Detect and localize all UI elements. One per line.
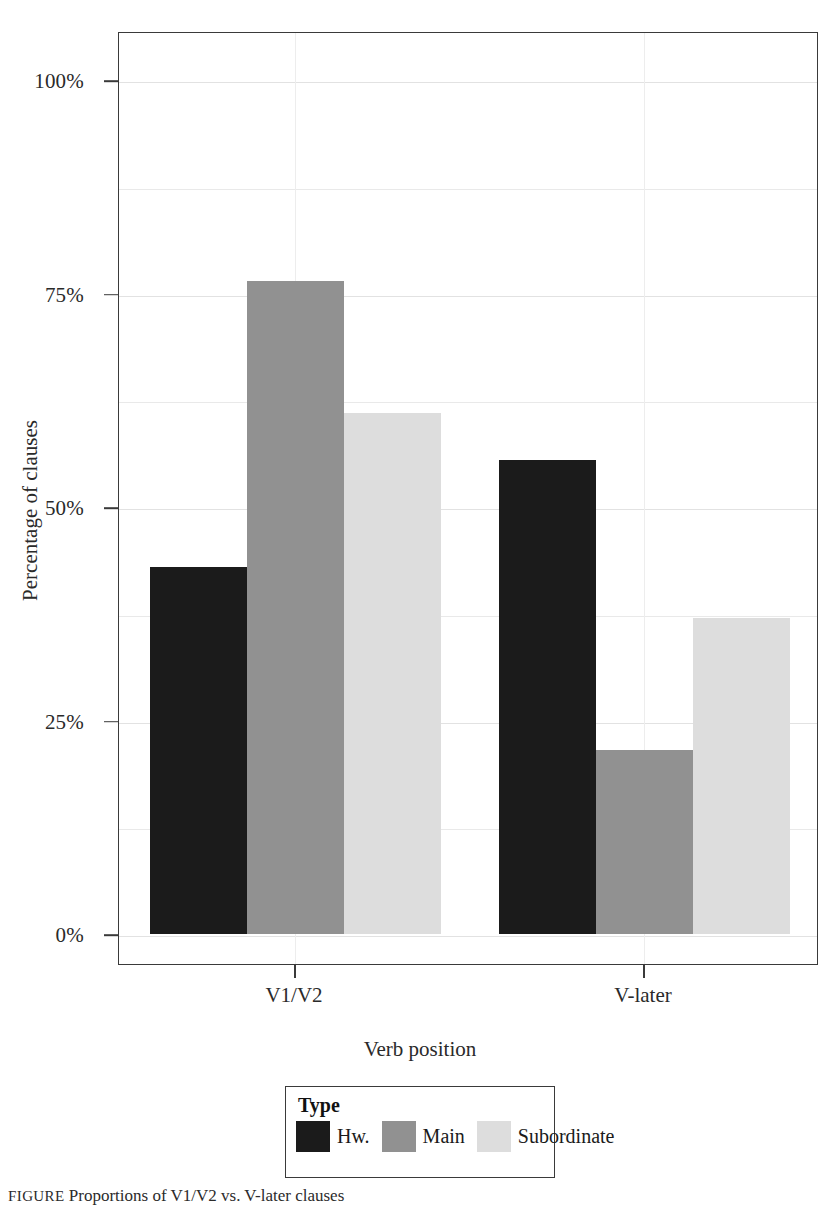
y-tick-mark: [104, 294, 118, 296]
gridline-major: [119, 82, 817, 83]
plot-frame: [118, 32, 818, 965]
y-tick-label: 25%: [45, 709, 84, 734]
gridline-major: [119, 296, 817, 297]
x-tick-mark: [294, 965, 296, 978]
bar-main-vlater: [596, 750, 693, 934]
bar-hw-vlater: [499, 460, 596, 934]
legend-label: Main: [423, 1125, 465, 1148]
plot-area: [119, 33, 817, 964]
y-tick-label: 0%: [56, 923, 84, 948]
bar-subordinate-v1v2: [344, 413, 441, 934]
y-tick-label: 100%: [34, 69, 84, 94]
legend-label: Subordinate: [518, 1125, 615, 1148]
figure-caption-text: Proportions of V1/V2 vs. V-later clauses: [69, 1186, 344, 1205]
bar-subordinate-vlater: [693, 618, 790, 934]
y-tick-label: 50%: [45, 496, 84, 521]
legend-items: Hw.MainSubordinate: [296, 1121, 554, 1152]
legend-label: Hw.: [337, 1125, 370, 1148]
bar-main-v1v2: [247, 281, 344, 934]
legend-item: Main: [382, 1121, 477, 1152]
gridline-major: [119, 509, 817, 510]
y-axis-title: Percentage of clauses: [18, 341, 43, 681]
x-tick-label: V-later: [614, 983, 672, 1008]
y-tick-mark: [104, 507, 118, 509]
y-tick-mark: [104, 934, 118, 936]
legend-swatch: [477, 1121, 511, 1152]
figure-caption: FIGURE Proportions of V1/V2 vs. V-later …: [8, 1186, 832, 1206]
legend: Type Hw.MainSubordinate: [285, 1086, 555, 1178]
x-axis-title: Verb position: [0, 1037, 840, 1062]
legend-item: Subordinate: [477, 1121, 627, 1152]
legend-swatch: [296, 1121, 330, 1152]
legend-swatch: [382, 1121, 416, 1152]
gridline-minor: [119, 189, 817, 190]
legend-title: Type: [298, 1095, 554, 1115]
gridline-minor: [119, 402, 817, 403]
bar-hw-v1v2: [150, 567, 247, 934]
y-tick-mark: [104, 721, 118, 723]
gridline-major: [119, 936, 817, 937]
x-tick-label: V1/V2: [265, 983, 322, 1008]
y-tick-label: 75%: [45, 282, 84, 307]
legend-item: Hw.: [296, 1121, 382, 1152]
figure-caption-label: FIGURE: [8, 1188, 65, 1204]
y-tick-mark: [104, 80, 118, 82]
x-tick-mark: [643, 965, 645, 978]
